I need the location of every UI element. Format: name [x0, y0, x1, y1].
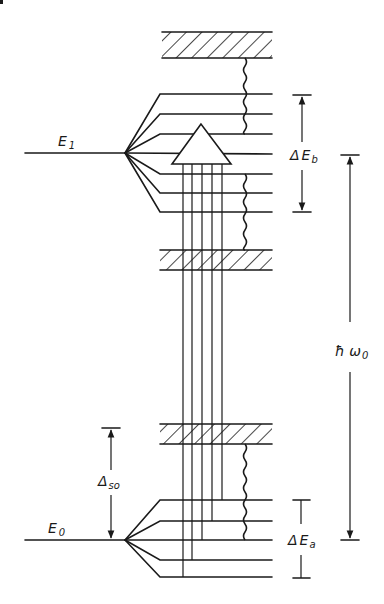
label-delta-eb: ΔEb	[289, 147, 318, 165]
delta-eb-dimension: ΔEb	[289, 95, 318, 212]
delta-so-dimension: Δso	[97, 428, 120, 538]
wavy-relaxation-lines	[244, 58, 247, 540]
transition-arrowhead-icon	[172, 124, 231, 164]
label-e0: E0	[48, 520, 65, 538]
hatched-band-middle	[160, 250, 272, 270]
lower-manifold-e0	[25, 500, 272, 577]
label-delta-so: Δso	[97, 473, 120, 491]
upper-manifold-e1	[25, 94, 272, 212]
label-h-omega0: ħ ω0	[335, 343, 368, 361]
wavy-line-upper-top	[244, 58, 247, 134]
absorption-transitions	[183, 164, 222, 577]
h-omega0-dimension: ħ ω0	[335, 155, 368, 540]
delta-ea-dimension: ΔEa	[287, 500, 316, 578]
label-delta-ea: ΔEa	[287, 532, 316, 550]
label-e1: E1	[58, 133, 75, 151]
hatched-band-top	[162, 32, 272, 58]
energy-level-diagram: E1 E0 ΔEb ħ ω0 Δso ΔEa	[0, 0, 384, 604]
wavy-line-lower	[244, 444, 247, 540]
cropped-caption-fragment	[0, 0, 3, 4]
hatched-band-lower	[160, 424, 272, 444]
